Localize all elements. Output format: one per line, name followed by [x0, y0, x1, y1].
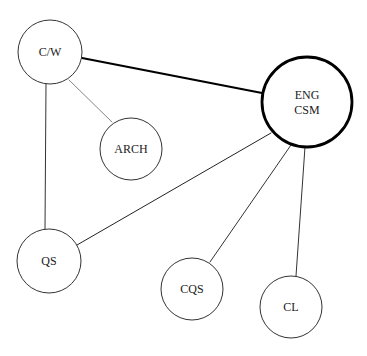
node-qs: QS: [17, 229, 81, 293]
node-arch: ARCH: [100, 118, 162, 180]
node-label: ARCH: [114, 142, 148, 156]
node-cw: C/W: [18, 20, 82, 84]
node-cqs: CQS: [161, 258, 223, 320]
node-label: QS: [41, 254, 56, 268]
edge-cw-arch: [69, 80, 112, 122]
network-diagram: C/WARCHENGCSMQSCQSCL: [0, 0, 367, 356]
node-eng: ENGCSM: [262, 57, 352, 147]
node-label: CQS: [180, 282, 203, 296]
edge-cw-qs: [45, 84, 46, 230]
edge-eng-cqs: [210, 145, 291, 262]
node-label: CL: [283, 300, 298, 314]
edge-cw-eng: [82, 58, 262, 93]
nodes-layer: C/WARCHENGCSMQSCQSCL: [17, 20, 352, 338]
node-label: ENG: [295, 88, 320, 102]
node-cl: CL: [260, 276, 322, 338]
node-label: CSM: [294, 103, 320, 117]
node-label: C/W: [39, 45, 62, 59]
edge-eng-cl: [296, 147, 305, 276]
